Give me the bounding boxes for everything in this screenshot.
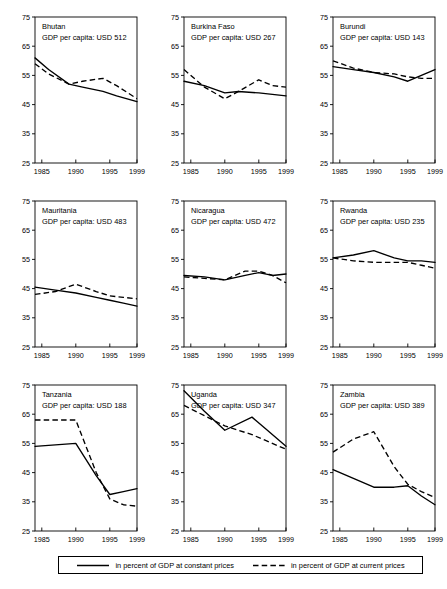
panel-gdp-per-capita-label: GDP per capita: USD 472 <box>191 217 276 226</box>
y-tick-label: 35 <box>22 497 30 506</box>
y-tick-label: 65 <box>171 410 179 419</box>
y-tick-label: 75 <box>171 381 179 390</box>
panel-country-label: Burundi <box>340 22 366 31</box>
panel-rwanda: 2535455565751985199019951999RwandaGDP pe… <box>298 184 447 368</box>
y-tick-label: 45 <box>320 100 328 109</box>
panel-gdp-per-capita-label: GDP per capita: USD 512 <box>42 33 127 42</box>
y-tick-label: 65 <box>171 42 179 51</box>
y-tick-label: 65 <box>22 42 30 51</box>
x-tick-label: 1999 <box>278 535 294 544</box>
series-line-solid <box>184 273 286 280</box>
panel-gdp-per-capita-label: GDP per capita: USD 483 <box>42 217 127 226</box>
legend-label-current-prices: in percent of GDP at current prices <box>291 561 405 570</box>
x-tick-label: 1999 <box>129 167 145 176</box>
panel-gdp-per-capita-label: GDP per capita: USD 389 <box>340 401 425 410</box>
x-tick-label: 1990 <box>366 535 382 544</box>
x-tick-label: 1995 <box>102 535 118 544</box>
series-line-solid <box>333 470 435 505</box>
series-line-solid <box>333 67 435 82</box>
y-tick-label: 55 <box>22 71 30 80</box>
x-tick-label: 1999 <box>278 167 294 176</box>
x-tick-label: 1999 <box>129 351 145 360</box>
y-tick-label: 25 <box>171 343 179 352</box>
y-tick-label: 35 <box>171 129 179 138</box>
panel-tanzania: 2535455565751985199019951999TanzaniaGDP … <box>0 368 149 552</box>
series-line-dashed <box>333 258 435 268</box>
x-tick-label: 1995 <box>251 351 267 360</box>
y-tick-label: 65 <box>320 410 328 419</box>
y-tick-label: 35 <box>320 497 328 506</box>
gdp-share-small-multiples-figure: 2535455565751985199019951999BhutanGDP pe… <box>0 0 447 589</box>
panel-country-label: Zambia <box>340 390 366 399</box>
y-tick-label: 65 <box>171 226 179 235</box>
legend-dashed-line-icon <box>252 561 286 570</box>
y-tick-label: 45 <box>171 284 179 293</box>
y-tick-label: 55 <box>171 71 179 80</box>
x-tick-label: 1990 <box>68 535 84 544</box>
panel-uganda: 2535455565751985199019951999UgandaGDP pe… <box>149 368 298 552</box>
y-tick-label: 35 <box>320 313 328 322</box>
y-tick-label: 25 <box>320 343 328 352</box>
series-line-dashed <box>35 284 137 299</box>
y-tick-label: 75 <box>320 381 328 390</box>
y-tick-label: 45 <box>320 468 328 477</box>
y-tick-label: 55 <box>22 255 30 264</box>
y-tick-label: 45 <box>22 100 30 109</box>
y-tick-label: 75 <box>171 197 179 206</box>
panel-gdp-per-capita-label: GDP per capita: USD 235 <box>340 217 425 226</box>
y-tick-label: 35 <box>171 313 179 322</box>
y-tick-label: 65 <box>22 226 30 235</box>
y-tick-label: 65 <box>320 226 328 235</box>
y-tick-label: 55 <box>171 439 179 448</box>
y-tick-label: 35 <box>22 129 30 138</box>
y-tick-label: 35 <box>320 129 328 138</box>
panel-gdp-per-capita-label: GDP per capita: USD 347 <box>191 401 276 410</box>
x-tick-label: 1999 <box>278 351 294 360</box>
x-tick-label: 1990 <box>366 351 382 360</box>
legend-entry-current-prices: in percent of GDP at current prices <box>252 561 405 570</box>
panel-country-label: Uganda <box>191 390 218 399</box>
x-tick-label: 1985 <box>332 535 348 544</box>
x-tick-label: 1985 <box>183 351 199 360</box>
x-tick-label: 1995 <box>400 535 416 544</box>
y-tick-label: 75 <box>171 13 179 22</box>
legend-label-constant-prices: in percent of GDP at constant prices <box>115 561 234 570</box>
y-tick-label: 25 <box>22 343 30 352</box>
panel-country-label: Rwanda <box>340 206 368 215</box>
y-tick-label: 25 <box>171 527 179 536</box>
panel-burundi: 2535455565751985199019951999BurundiGDP p… <box>298 0 447 184</box>
panel-gdp-per-capita-label: GDP per capita: USD 267 <box>191 33 276 42</box>
y-tick-label: 25 <box>171 159 179 168</box>
y-tick-label: 45 <box>22 284 30 293</box>
x-tick-label: 1995 <box>400 351 416 360</box>
panel-nicaragua: 2535455565751985199019951999NicaraguaGDP… <box>149 184 298 368</box>
panel-country-label: Tanzania <box>42 390 72 399</box>
x-tick-label: 1999 <box>129 535 145 544</box>
y-tick-label: 75 <box>22 381 30 390</box>
series-line-dashed <box>35 420 137 506</box>
panel-mauritania: 2535455565751985199019951999MauritaniaGD… <box>0 184 149 368</box>
y-tick-label: 65 <box>22 410 30 419</box>
series-line-solid <box>35 443 137 494</box>
x-tick-label: 1995 <box>251 167 267 176</box>
x-tick-label: 1990 <box>68 351 84 360</box>
y-tick-label: 75 <box>22 197 30 206</box>
panel-grid: 2535455565751985199019951999BhutanGDP pe… <box>0 0 447 552</box>
panel-gdp-per-capita-label: GDP per capita: USD 188 <box>42 401 127 410</box>
x-tick-label: 1990 <box>68 167 84 176</box>
panel-burkina-faso: 2535455565751985199019951999Burkina Faso… <box>149 0 298 184</box>
y-tick-label: 55 <box>22 439 30 448</box>
y-tick-label: 45 <box>171 468 179 477</box>
y-tick-label: 45 <box>320 284 328 293</box>
series-line-solid <box>333 251 435 263</box>
y-tick-label: 75 <box>320 13 328 22</box>
y-tick-label: 35 <box>171 497 179 506</box>
y-tick-label: 55 <box>171 255 179 264</box>
panel-country-label: Mauritania <box>42 206 77 215</box>
panel-gdp-per-capita-label: GDP per capita: USD 143 <box>340 33 425 42</box>
series-line-solid <box>184 391 286 446</box>
x-tick-label: 1995 <box>400 167 416 176</box>
x-tick-label: 1995 <box>102 351 118 360</box>
panel-country-label: Nicaragua <box>191 206 226 215</box>
x-tick-label: 1985 <box>332 351 348 360</box>
